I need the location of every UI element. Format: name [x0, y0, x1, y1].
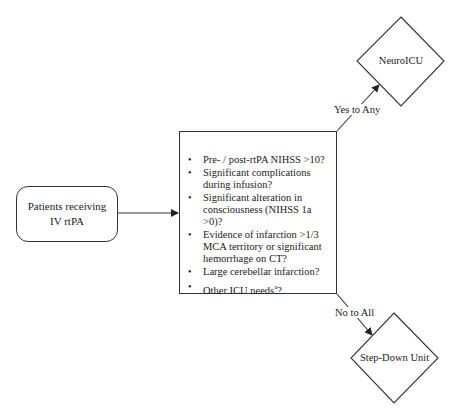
no-to-all-label: No to All	[334, 307, 375, 318]
criteria-item: Significant complications during infusio…	[187, 167, 332, 191]
criteria-item: Evidence of infarction >1/3 MCA territor…	[187, 229, 332, 265]
criteria-item-suffix: ?	[277, 285, 282, 296]
start-node-label: Patients receiving IV rtPA	[23, 199, 111, 229]
criteria-item: Significant alteration in consciousness …	[187, 192, 332, 228]
yes-to-any-label: Yes to Any	[333, 104, 381, 115]
start-node: Patients receiving IV rtPA	[16, 186, 118, 242]
criteria-item: Pre- / post-rtPA NIHSS >10?	[187, 154, 332, 166]
criteria-list: Pre- / post-rtPA NIHSS >10? Significant …	[187, 154, 332, 298]
criteria-node: Pre- / post-rtPA NIHSS >10? Significant …	[179, 131, 337, 294]
criteria-item: Other ICU needsa?	[187, 281, 332, 297]
stepdown-label: Step-Down Unit	[351, 352, 438, 363]
criteria-item-text: Other ICU needs	[203, 285, 274, 296]
criteria-item: Large cerebellar infarction?	[187, 266, 332, 278]
neuroicu-label: NeuroICU	[357, 55, 445, 66]
